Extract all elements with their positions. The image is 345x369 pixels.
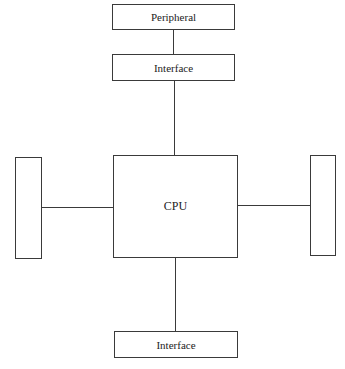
cpu-box: CPU	[113, 155, 238, 258]
connector-cpu-interface-bottom	[175, 258, 176, 332]
connector-left-cpu	[42, 207, 113, 208]
interface-bottom-box: Interface	[114, 331, 238, 358]
cpu-label: CPU	[164, 199, 187, 214]
interface-bottom-label: Interface	[156, 339, 195, 351]
interface-top-box: Interface	[112, 54, 235, 81]
peripheral-box: Peripheral	[112, 4, 235, 30]
right-unit-box	[310, 155, 336, 256]
peripheral-label: Peripheral	[151, 11, 196, 23]
connector-interface-cpu	[174, 81, 175, 156]
connector-cpu-right	[238, 205, 310, 206]
connector-peripheral-interface	[173, 30, 174, 54]
left-unit-box	[15, 157, 42, 259]
interface-top-label: Interface	[154, 62, 193, 74]
